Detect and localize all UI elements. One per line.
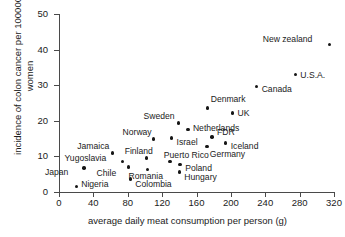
data-point-label: Iceland (231, 142, 259, 151)
data-point-label: Puerto Rico (164, 151, 209, 160)
data-point-label: U.S.A. (300, 71, 325, 80)
data-point-label: Finland (125, 147, 153, 156)
data-point-labels-layer: NigeriaJapanYugoslaviaChileColombiaJamai… (0, 0, 345, 237)
data-point-label: Germany (210, 150, 245, 159)
data-point-label: Denmark (211, 95, 246, 104)
data-point-label: Jamaica (77, 142, 109, 151)
x-axis-title: average daily meat consumption per perso… (40, 215, 335, 226)
data-point-label: UK (238, 109, 250, 118)
data-point-label: FDR (217, 128, 235, 137)
data-point-label: Poland (185, 164, 212, 173)
y-axis-title: incidence of colon cancer per 100000 wom… (12, 0, 36, 161)
data-point-label: Japan (45, 168, 68, 177)
scatter-chart: 0102030405004080120160200240280320 Niger… (0, 0, 345, 237)
data-point-label: Israel (177, 138, 198, 147)
data-point-label: Sweden (143, 112, 174, 121)
data-point-label: Chile (97, 169, 117, 178)
data-point-label: Nigeria (81, 180, 108, 189)
data-point-label: Hungary (184, 173, 216, 182)
data-point-label: Canada (262, 85, 292, 94)
data-point-label: Norway (123, 128, 152, 137)
data-point-label: Yugoslavia (65, 154, 107, 163)
data-point-label: Romania (129, 172, 163, 181)
data-point-label: Colombia (135, 180, 171, 189)
data-point-label: New zealand (263, 35, 313, 44)
